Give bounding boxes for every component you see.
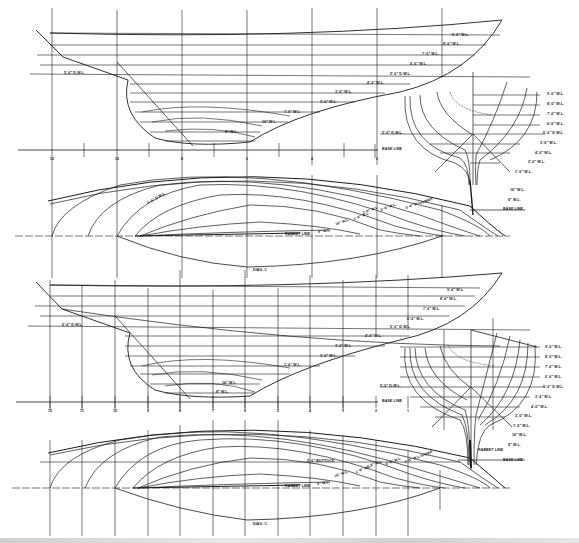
body-waterline-label: 5'-6" D.W.L. xyxy=(543,131,564,135)
body-dwl-label: 5'-6" D.W.L. xyxy=(380,384,401,388)
scan-edge-strip xyxy=(0,538,579,543)
waterline-label: 2'-6" W.L. xyxy=(320,354,337,358)
waterline-label: 9'-6" W.L. xyxy=(447,288,464,292)
body-waterline-label: 4'-0" W.L. xyxy=(531,405,548,409)
station-number: 2 xyxy=(376,157,378,161)
station-number: 5 xyxy=(277,409,279,413)
station-number: 6 xyxy=(246,157,248,161)
body-waterline-label: 1'-6" W.L. xyxy=(513,424,530,428)
waterline-label: 6'-6" W.L. xyxy=(410,62,427,66)
station-number: 12 xyxy=(50,157,54,161)
waterline-label: 8'-6" W.L. xyxy=(440,297,457,301)
body-waterline-label: 4'-0" W.L. xyxy=(535,151,552,155)
body-waterline-label: 2'-6" W.L. xyxy=(528,160,545,164)
body-waterline-label: 8'-6" W.L. xyxy=(545,355,562,359)
rabbet-label: RABBET LINE xyxy=(285,484,310,488)
body-waterline-label: 6'-6" W.L. xyxy=(547,122,564,126)
lines-plan-drawing xyxy=(0,0,579,543)
station-number: 10 xyxy=(115,157,119,161)
waterline-label: 3'-6" W.L. xyxy=(335,344,352,348)
body-waterline-label: 16" W.L. xyxy=(512,433,527,437)
body-waterline-label: 3'-6" W.L. xyxy=(540,141,557,145)
waterline-label: 6'-6" W.L. xyxy=(407,317,424,321)
body-waterline-label: 5'-6" D.W.L. xyxy=(543,385,564,389)
body-waterline-label: 7'-6" W.L. xyxy=(547,112,564,116)
station-number: 4 xyxy=(311,157,313,161)
plan-1-body-plan xyxy=(380,72,545,215)
body-waterline-label: 7'-6" W.L. xyxy=(545,365,562,369)
station-number: 11 xyxy=(80,409,84,413)
body-waterline-label: 8" W.L. xyxy=(508,443,521,447)
station-number: 4 xyxy=(309,409,311,413)
waterline-label: 8" W.L. xyxy=(216,390,229,394)
station-number: 9 xyxy=(147,409,149,413)
station-number: 2 xyxy=(375,409,377,413)
station-number: 1 xyxy=(407,409,409,413)
rabbet-label: RABBET LINE xyxy=(285,232,310,236)
body-base-line-label: BASE LINE xyxy=(503,458,523,462)
waterline-label: 2'-6" W.L. xyxy=(320,100,337,104)
station-number: 6 xyxy=(244,409,246,413)
diagonal-label: DIAG. C xyxy=(253,522,267,526)
waterline-label: 7'-6" W.L. xyxy=(422,52,439,56)
body-dwl-label: 5'-6" D.W.L. xyxy=(382,131,403,135)
waterline-label: 9'-6" W.L. xyxy=(452,33,469,37)
body-waterline-label: 6'-6" W.L. xyxy=(545,375,562,379)
waterline-label: 4'-6" W.L. xyxy=(365,334,382,338)
body-waterline-label: 8" W.L. xyxy=(508,198,521,202)
waterline-label: 5'-6" D.W.L. xyxy=(390,72,411,76)
base-line-label: BASE LINE xyxy=(382,399,402,403)
station-number: 10 xyxy=(113,409,117,413)
rabbet-line-label: RABBET LINE xyxy=(478,448,503,452)
waterline-label: 1'-6" W.L. xyxy=(284,110,301,114)
waterline-label: 16" W.L. xyxy=(262,120,277,124)
station-number: 8 xyxy=(179,409,181,413)
body-base-line-label: BASE LINE xyxy=(503,207,523,211)
body-waterline-label: 1'-6" W.L. xyxy=(515,170,532,174)
dwl-aft-label: 5'-6" D.W.L. xyxy=(62,323,83,327)
station-number: 7 xyxy=(212,409,214,413)
plan-2-half-breadth xyxy=(12,420,510,536)
plan-1-half-breadth xyxy=(15,175,510,278)
waterline-label: 1'-6" W.L. xyxy=(284,363,301,367)
diagonal-label: DIAG. C xyxy=(253,268,267,272)
station-number: 3 xyxy=(342,409,344,413)
waterline-label: 16" W.L. xyxy=(222,381,237,385)
waterline-label: 3'-6" W.L. xyxy=(335,90,352,94)
waterline-label: 8'-6" W.L. xyxy=(443,42,460,46)
station-number: 8 xyxy=(181,157,183,161)
waterline-label: 5'-6" D.W.L. xyxy=(390,325,411,329)
waterline-label: 7'-6" W.L. xyxy=(423,307,440,311)
plan-2-body-plan xyxy=(380,318,545,470)
base-line-label: BASE LINE xyxy=(382,147,402,151)
body-waterline-label: 16" W.L. xyxy=(510,188,525,192)
body-waterline-label: 2'-6" W.L. xyxy=(515,414,532,418)
body-waterline-label: 3'-6" W.L. xyxy=(535,395,552,399)
waterline-label: 4'-6" W.L. xyxy=(367,81,384,85)
waterline-label: 8" W.L. xyxy=(225,130,238,134)
buttock-label: 5'-6" BUTTOCK xyxy=(307,459,335,463)
dwl-aft-label: 5'-6" D.W.L. xyxy=(64,71,85,75)
station-number: 12 xyxy=(48,409,52,413)
body-waterline-label: 9'-6" W.L. xyxy=(545,345,562,349)
body-waterline-label: 9'-6" W.L. xyxy=(547,92,564,96)
body-waterline-label: 8'-6" W.L. xyxy=(547,102,564,106)
